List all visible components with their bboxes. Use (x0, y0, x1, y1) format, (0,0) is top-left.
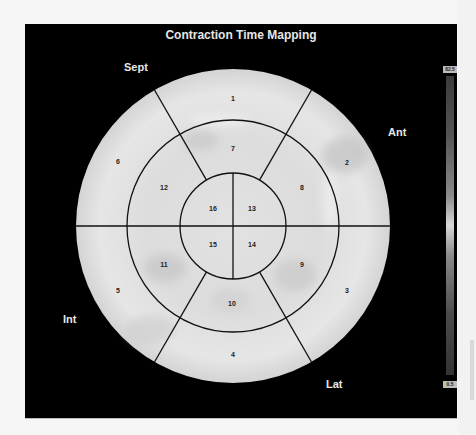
segment-16-label: 16 (209, 205, 217, 212)
colorbar-min-label: 0.5 (443, 381, 457, 388)
orientation-label-ant: Ant (388, 126, 406, 138)
segment-4-label: 4 (231, 351, 235, 358)
segment-10-label: 10 (228, 300, 236, 307)
page-margin (458, 0, 476, 435)
segment-9-label: 9 (300, 261, 304, 268)
colorbar-max-label: 82.5 (443, 66, 457, 73)
orientation-label-sept: Sept (124, 61, 148, 73)
orientation-label-int: Int (63, 313, 76, 325)
segment-12-label: 12 (160, 184, 168, 191)
segment-2-label: 2 (345, 159, 349, 166)
segment-6-label: 6 (116, 158, 120, 165)
segment-13-label: 13 (248, 205, 256, 212)
segment-7-label: 7 (231, 145, 235, 152)
segment-5-label: 5 (116, 287, 120, 294)
segment-15-label: 15 (209, 241, 217, 248)
segment-1-label: 1 (231, 95, 235, 102)
colorbar (446, 76, 454, 375)
segment-14-label: 14 (248, 241, 256, 248)
bullseye-plot: 1 2 3 4 5 6 7 8 9 10 11 12 13 14 15 16 (0, 0, 476, 435)
segment-11-label: 11 (160, 261, 168, 268)
segment-8-label: 8 (300, 184, 304, 191)
segment-3-label: 3 (345, 287, 349, 294)
scroll-edge (470, 340, 474, 400)
orientation-label-lat: Lat (326, 378, 343, 390)
